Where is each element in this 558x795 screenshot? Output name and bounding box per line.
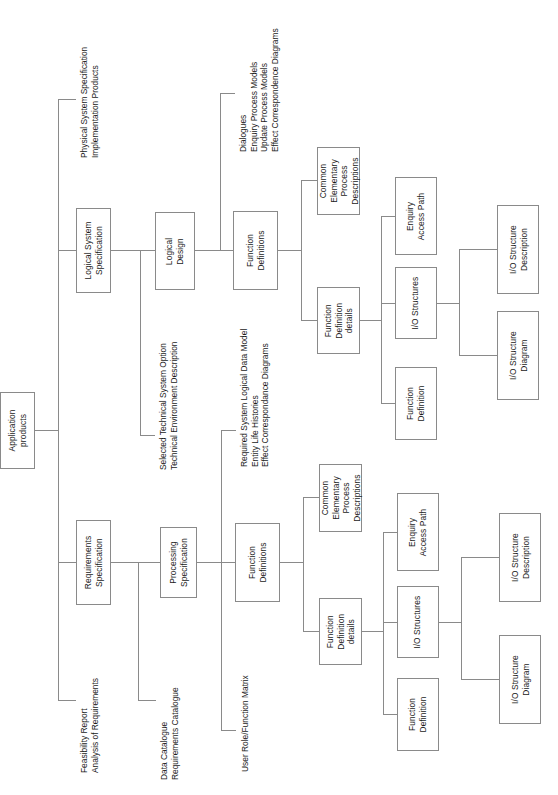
node-common-elementary-process-descriptions-lower[interactable]: CommonElementaryProcessDescriptions [319, 464, 362, 532]
node-io-structure-description-upper[interactable]: I/O StructureDescription [497, 205, 539, 294]
connector-fdd-upper [301, 320, 317, 321]
connector-root-out [34, 430, 58, 431]
connector-data-catalogue [138, 700, 156, 701]
connector-eap-upper [381, 216, 395, 217]
node-logical-system-specification[interactable]: Logical SystemSpecification [76, 208, 111, 293]
connector-ps-out [196, 562, 221, 563]
connector-fdl-spine [303, 497, 304, 631]
node-label: FunctionDefinition [405, 386, 426, 422]
node-label: LogicalDesign [165, 237, 186, 264]
annotation-data-catalogue: Data CatalogueRequirements Catalogue [159, 687, 180, 780]
connector-selected-tech-option [140, 435, 155, 436]
node-function-definition-details-lower[interactable]: FunctionDefinitiondetails [319, 598, 362, 665]
connector-iosl-spine [461, 557, 462, 679]
annotation-selected-technical-system-option: Selected Technical System OptionTechnica… [158, 342, 179, 470]
connector-fdu-spine [301, 180, 302, 320]
node-common-elementary-process-descriptions-upper[interactable]: CommonElementaryProcessDescriptions [317, 147, 360, 215]
diagram-canvas: Applicationproducts Logical SystemSpecif… [0, 0, 558, 795]
connector-fddl-out [361, 631, 383, 632]
connector-root-spine [58, 99, 59, 700]
node-label: CommonElementaryProcessDescriptions [318, 157, 360, 204]
connector-ld-spine [220, 93, 221, 250]
connector-physical-system-spec [58, 99, 76, 100]
node-label: FunctionDefinitions [245, 230, 266, 270]
connector-iosdg-upper [459, 355, 497, 356]
node-processing-specification[interactable]: ProcessingSpecification [160, 527, 197, 598]
connector-iosu-out [437, 303, 459, 304]
connector-required-system-ldm [221, 430, 236, 431]
node-application-products[interactable]: Applicationproducts [0, 392, 35, 469]
connector-dialogues [220, 93, 235, 94]
node-function-definitions-lower[interactable]: FunctionDefinitions [235, 523, 280, 602]
node-label: I/O Structures [413, 595, 424, 648]
connector-lss-out [110, 250, 140, 251]
node-enquiry-access-path-upper[interactable]: EnquiryAccess Path [395, 177, 437, 255]
node-label: FunctionDefinitiondetails [323, 303, 355, 339]
annotation-required-system-logical-data-model: Required System Logical Data ModelEntity… [239, 329, 271, 467]
connector-fdd-lower [303, 631, 319, 632]
connector-ios-lower [383, 622, 397, 623]
node-logical-design[interactable]: LogicalDesign [155, 212, 195, 290]
node-label: I/O StructureDiagram [510, 655, 531, 704]
node-function-definition-details-upper[interactable]: FunctionDefinitiondetails [317, 287, 360, 354]
connector-fd-lower [383, 714, 397, 715]
connector-user-role-matrix [221, 730, 236, 731]
connector-fd-upper [381, 403, 395, 404]
connector-fdl-out [279, 562, 303, 563]
connector-iosd-lower [461, 557, 499, 558]
connector-iosdg-lower [461, 679, 499, 680]
node-function-definition-upper[interactable]: FunctionDefinition [395, 367, 437, 440]
node-io-structure-description-lower[interactable]: I/O StructureDescription [499, 513, 541, 602]
connector-feasibility-report [58, 700, 76, 701]
node-label: ProcessingSpecification [168, 538, 189, 587]
connector-ld-out [195, 250, 220, 251]
node-label: CommonElementaryProcessDescriptions [320, 474, 362, 521]
annotation-text: Data CatalogueRequirements Catalogue [159, 687, 180, 780]
node-requirements-specification[interactable]: RequirementsSpecification [76, 520, 111, 605]
node-io-structures-upper[interactable]: I/O Structures [395, 267, 437, 339]
connector-ps-spine [221, 430, 222, 730]
connector-iosu-spine [459, 249, 460, 355]
node-label: EnquiryAccess Path [408, 508, 429, 556]
node-label: I/O Structures [411, 276, 422, 329]
connector-processing-spec-in [138, 562, 160, 563]
connector-cepd-lower [303, 497, 319, 498]
node-function-definitions-upper[interactable]: FunctionDefinitions [233, 211, 278, 290]
connector-function-definitions-upper-in [220, 250, 233, 251]
annotation-feasibility-report: Feasibility ReportAnalysis of Requiremen… [79, 678, 100, 773]
node-label: I/O StructureDescription [510, 533, 531, 582]
connector-rs-spine [138, 562, 139, 700]
connector-cepd-upper [301, 180, 317, 181]
node-label: Applicationproducts [7, 409, 28, 451]
node-label: I/O StructureDescription [508, 225, 529, 274]
annotation-text: DialoguesEnquiry Process ModelsUpdate Pr… [238, 28, 280, 152]
annotation-text: Physical System SpecificationImplementat… [79, 47, 100, 158]
connector-function-definitions-lower-in [221, 562, 235, 563]
connector-ios-upper [381, 303, 395, 304]
annotation-dialogues-group: DialoguesEnquiry Process ModelsUpdate Pr… [238, 28, 280, 152]
connector-iosd-upper [459, 249, 497, 250]
node-label: Logical SystemSpecification [83, 221, 104, 279]
node-io-structures-lower[interactable]: I/O Structures [397, 586, 439, 658]
node-label: FunctionDefinitions [247, 542, 268, 582]
node-label: FunctionDefinitiondetails [325, 614, 357, 650]
connector-logical-design [140, 250, 155, 251]
connector-lss-spine [140, 250, 141, 435]
annotation-user-role-function-matrix: User Role/Function Matrix [240, 675, 251, 772]
connector-requirements-spec [58, 562, 76, 563]
annotation-physical-system-specification: Physical System SpecificationImplementat… [79, 47, 100, 158]
annotation-text: Feasibility ReportAnalysis of Requiremen… [79, 678, 100, 773]
node-enquiry-access-path-lower[interactable]: EnquiryAccess Path [397, 493, 439, 571]
node-io-structure-diagram-lower[interactable]: I/O StructureDiagram [499, 635, 541, 724]
connector-fdu-out [277, 250, 301, 251]
connector-fddu-spine [381, 216, 382, 403]
connector-fddl-spine [383, 532, 384, 714]
node-label: FunctionDefinition [407, 697, 428, 733]
node-io-structure-diagram-upper[interactable]: I/O StructureDiagram [497, 311, 539, 400]
annotation-text: User Role/Function Matrix [240, 675, 250, 772]
node-label: RequirementsSpecification [83, 536, 104, 589]
node-function-definition-lower[interactable]: FunctionDefinition [397, 678, 439, 751]
node-label: I/O StructureDiagram [508, 331, 529, 380]
annotation-text: Required System Logical Data ModelEntity… [239, 329, 270, 467]
connector-rs-out [110, 562, 138, 563]
